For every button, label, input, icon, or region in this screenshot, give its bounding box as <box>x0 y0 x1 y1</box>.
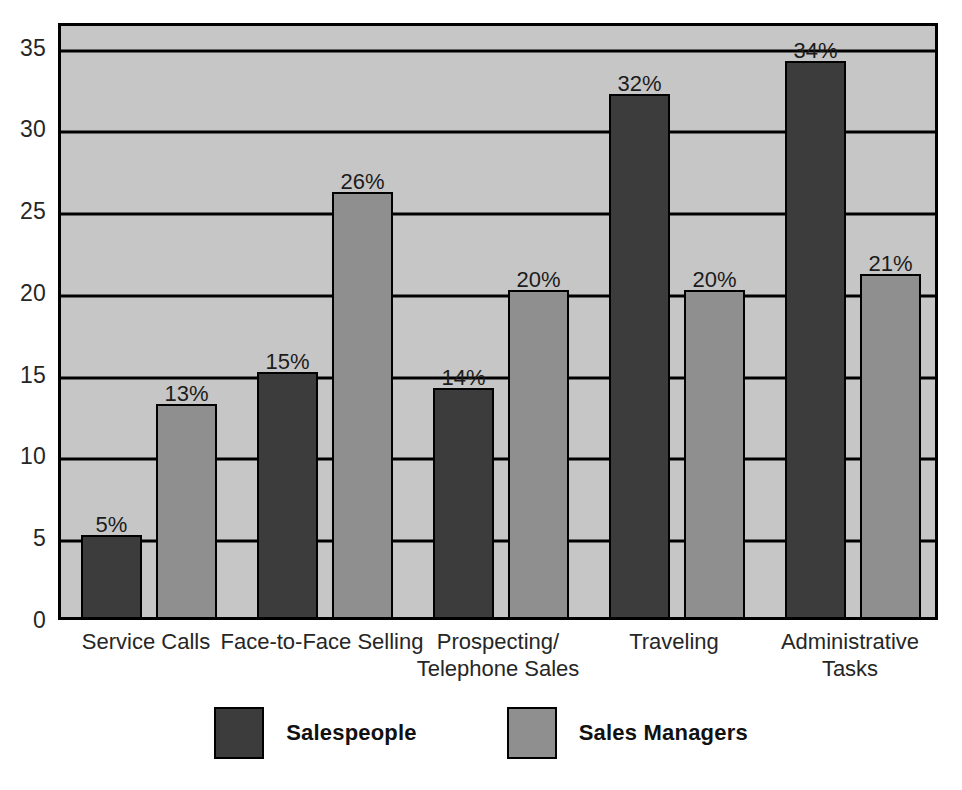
plot-area: 5%13%15%26%14%20%32%20%34%21% <box>58 23 938 620</box>
bar <box>508 290 569 617</box>
bar-value-label: 21% <box>868 253 912 275</box>
bar-value-label: 5% <box>96 514 128 536</box>
bar-value-label: 13% <box>164 383 208 405</box>
bar <box>609 94 670 617</box>
y-axis-tick-label: 35 <box>20 36 46 59</box>
y-axis-tick-label: 15 <box>20 363 46 386</box>
x-axis-category-label: Traveling <box>629 628 719 655</box>
legend-color-swatch <box>214 707 264 759</box>
bar <box>81 535 142 617</box>
bar <box>860 274 921 617</box>
y-axis-tick-label: 30 <box>20 118 46 141</box>
x-axis-category-label: Service Calls <box>82 628 210 655</box>
bar-value-label: 32% <box>617 73 661 95</box>
bar <box>257 372 318 617</box>
bar <box>433 388 494 617</box>
bar <box>785 61 846 617</box>
x-axis-category-label: Prospecting/ Telephone Sales <box>417 628 580 682</box>
y-axis-tick-label: 5 <box>33 527 46 550</box>
legend-item-label: Salespeople <box>286 720 417 746</box>
bar <box>332 192 393 617</box>
y-axis-tick-label: 0 <box>33 609 46 632</box>
legend-color-swatch <box>507 707 557 759</box>
x-axis-category-label: Administrative Tasks <box>781 628 919 682</box>
bar <box>156 404 217 617</box>
y-axis: 05101520253035 <box>0 0 58 790</box>
bars-layer: 5%13%15%26%14%20%32%20%34%21% <box>61 26 935 617</box>
y-axis-tick-label: 20 <box>20 281 46 304</box>
bar-value-label: 20% <box>516 269 560 291</box>
bar <box>684 290 745 617</box>
x-axis-category-label: Face-to-Face Selling <box>221 628 424 655</box>
y-axis-tick-label: 10 <box>20 445 46 468</box>
x-axis: Service CallsFace-to-Face SellingProspec… <box>58 628 938 698</box>
bar-value-label: 34% <box>793 40 837 62</box>
bar-chart-figure: 05101520253035 5%13%15%26%14%20%32%20%34… <box>0 0 962 790</box>
bar-value-label: 20% <box>692 269 736 291</box>
bar-value-label: 15% <box>265 351 309 373</box>
bar-value-label: 26% <box>340 171 384 193</box>
y-axis-tick-label: 25 <box>20 200 46 223</box>
legend-item[interactable]: Salespeople <box>214 707 417 759</box>
chart-legend: SalespeopleSales Managers <box>0 707 962 759</box>
bar-value-label: 14% <box>441 367 485 389</box>
legend-item-label: Sales Managers <box>579 720 748 746</box>
legend-item[interactable]: Sales Managers <box>507 707 748 759</box>
